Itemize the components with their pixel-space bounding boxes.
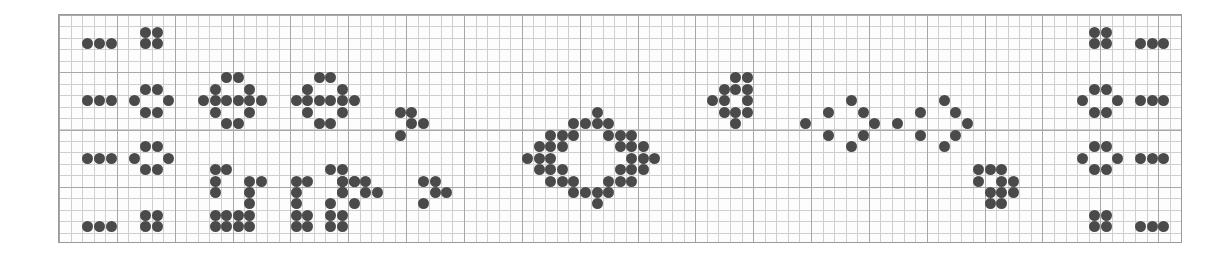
dot-marker (1101, 221, 1112, 232)
dot-marker (140, 210, 151, 221)
dot-marker (244, 176, 255, 187)
dot-marker (314, 118, 325, 129)
dot-marker (140, 27, 151, 38)
dot-marker (244, 210, 255, 221)
dot-marker (996, 176, 1007, 187)
dot-marker (858, 107, 869, 118)
dot-marker (82, 153, 93, 164)
dot-marker (545, 176, 556, 187)
dot-marker (233, 95, 244, 106)
dot-marker (337, 95, 348, 106)
dot-marker (210, 221, 221, 232)
dot-marker (325, 118, 336, 129)
dot-marker (719, 84, 730, 95)
dot-marker (545, 153, 556, 164)
dot-marker (1089, 84, 1100, 95)
dot-marker (221, 210, 232, 221)
dot-marker (603, 118, 614, 129)
dot-marker (1101, 107, 1112, 118)
dot-marker (939, 141, 950, 152)
dot-marker (360, 176, 371, 187)
dot-marker (1101, 27, 1112, 38)
dot-marker (592, 187, 603, 198)
dot-marker (360, 187, 371, 198)
dot-marker (846, 141, 857, 152)
dot-marker (1077, 153, 1088, 164)
dot-marker (1147, 221, 1158, 232)
dot-marker (210, 187, 221, 198)
dot-marker (325, 198, 336, 209)
dot-marker (233, 221, 244, 232)
dot-marker (152, 38, 163, 49)
dot-marker (915, 130, 926, 141)
dot-marker (973, 164, 984, 175)
dot-marker (1101, 38, 1112, 49)
dot-marker (1089, 38, 1100, 49)
dot-marker (742, 107, 753, 118)
dot-marker (152, 210, 163, 221)
dot-marker (568, 176, 579, 187)
dot-marker (337, 107, 348, 118)
dot-marker (603, 187, 614, 198)
dot-marker (592, 118, 603, 129)
dot-marker (1101, 164, 1112, 175)
dot-marker (1101, 141, 1112, 152)
dot-marker (302, 84, 313, 95)
dot-marker (349, 95, 360, 106)
dot-marker (915, 107, 926, 118)
dot-marker (314, 95, 325, 106)
dot-marker (568, 130, 579, 141)
dot-marker (603, 176, 614, 187)
dot-marker (996, 187, 1007, 198)
dot-marker (638, 164, 649, 175)
dot-marker (615, 130, 626, 141)
dot-marker (337, 164, 348, 175)
dot-marker (1077, 95, 1088, 106)
dot-marker (210, 84, 221, 95)
dot-marker (244, 187, 255, 198)
dot-marker (291, 210, 302, 221)
dot-marker (82, 38, 93, 49)
dot-marker (337, 84, 348, 95)
dot-marker (615, 141, 626, 152)
dot-marker (649, 153, 660, 164)
dot-marker (302, 107, 313, 118)
dot-marker (94, 38, 105, 49)
dot-marker (592, 198, 603, 209)
dot-marker (221, 95, 232, 106)
dot-marker (557, 164, 568, 175)
dot-marker (1101, 84, 1112, 95)
dot-marker (522, 153, 533, 164)
dot-marker (244, 95, 255, 106)
dot-marker (707, 95, 718, 106)
dot-marker (129, 95, 140, 106)
dot-marker (823, 107, 834, 118)
dot-marker (302, 221, 313, 232)
dot-marker (106, 38, 117, 49)
dot-marker (730, 84, 741, 95)
dot-marker (152, 107, 163, 118)
dot-marker (406, 118, 417, 129)
dot-pattern-figure (0, 0, 1232, 257)
dot-marker (996, 164, 1007, 175)
dot-marker (140, 107, 151, 118)
dot-marker (233, 210, 244, 221)
dot-marker (568, 187, 579, 198)
dot-marker (1089, 210, 1100, 221)
dot-marker (210, 210, 221, 221)
plot-frame (58, 14, 1182, 243)
dot-marker (233, 118, 244, 129)
dot-marker (626, 141, 637, 152)
dot-marker (626, 153, 637, 164)
dot-marker (291, 187, 302, 198)
dot-marker (82, 95, 93, 106)
dot-marker (1089, 164, 1100, 175)
dot-marker (534, 153, 545, 164)
dot-marker (140, 164, 151, 175)
dot-marker (106, 95, 117, 106)
dot-marker (291, 176, 302, 187)
dot-marker (140, 38, 151, 49)
dot-marker (557, 176, 568, 187)
dot-marker (152, 164, 163, 175)
dot-marker (244, 198, 255, 209)
